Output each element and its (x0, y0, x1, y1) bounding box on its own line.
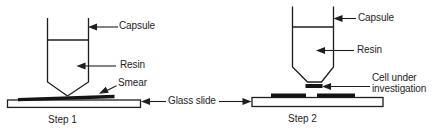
step1-caption: Step 1 (48, 114, 77, 125)
step1-resin-label: Resin (120, 60, 145, 71)
sample-preparation-figure: Capsule Resin Smear Step 1 Glass slide C… (0, 0, 444, 134)
step2-cell-arrow (324, 84, 371, 89)
step2-resin-arrow (318, 48, 355, 53)
step1-capsule-outline (48, 18, 89, 96)
glass-slide-arrow-left (143, 99, 167, 104)
step2-caption: Step 2 (288, 113, 317, 124)
step1-smear-arrow (99, 86, 116, 96)
glass-slide-arrow-right (219, 99, 250, 104)
step2-cell-chip (306, 84, 323, 88)
step2-cell-label: Cell under investigation (372, 73, 438, 94)
step2-resin-label: Resin (357, 45, 382, 56)
step2-smear-segment-right (317, 94, 355, 98)
step1-resin-arrow (78, 63, 116, 68)
step2-smear-segment-left (271, 94, 306, 98)
step2-capsule-arrow (335, 16, 356, 21)
step2-glass-slide (252, 98, 383, 107)
step1-capsule-arrow (90, 24, 119, 29)
step1-glass-slide (8, 100, 141, 107)
step1-smear-label: Smear (118, 78, 147, 89)
step2-capsule-label: Capsule (358, 13, 394, 24)
step2-capsule-outline (293, 7, 334, 83)
step1-capsule-label: Capsule (119, 21, 155, 32)
glass-slide-label: Glass slide (168, 96, 216, 107)
